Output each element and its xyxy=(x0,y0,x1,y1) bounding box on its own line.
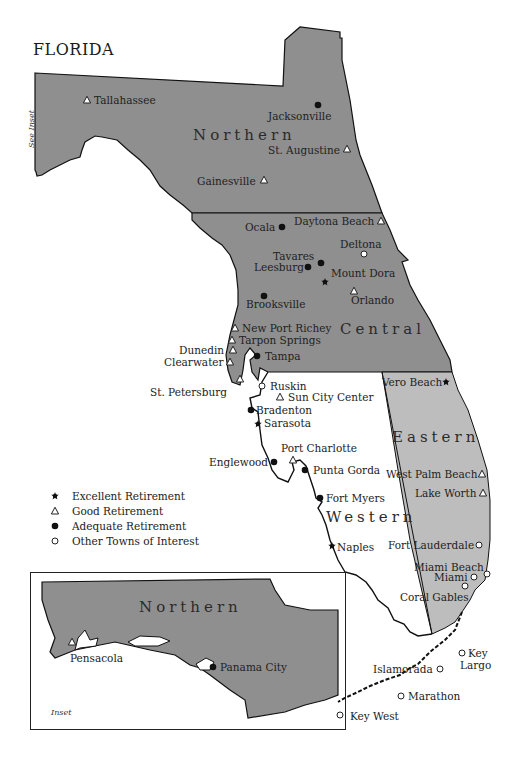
port-charlotte-marker[interactable] xyxy=(289,456,296,463)
legend-item-other: Other Towns of Interest xyxy=(50,533,199,548)
marathon-marker[interactable] xyxy=(398,693,404,699)
label-deltona[interactable]: Deltona xyxy=(340,238,382,250)
coral-gables-marker[interactable] xyxy=(462,583,468,589)
label-naples[interactable]: Naples xyxy=(337,541,374,553)
region-label-eastern: Eastern xyxy=(392,428,479,446)
label-punta-gorda[interactable]: Punta Gorda xyxy=(313,464,380,476)
legend: Excellent Retirement Good Retirement Ade… xyxy=(50,488,199,548)
region-label-western: Western xyxy=(326,508,417,526)
miami-marker[interactable] xyxy=(471,574,477,580)
label-marathon[interactable]: Marathon xyxy=(408,690,460,702)
label-miami[interactable]: Miami xyxy=(434,571,468,583)
label-daytona-beach[interactable]: Daytona Beach xyxy=(294,215,374,227)
label-ocala[interactable]: Ocala xyxy=(245,221,275,233)
label-key-west[interactable]: Key West xyxy=(350,710,399,722)
jacksonville-marker[interactable] xyxy=(315,102,322,109)
islamorada-marker[interactable] xyxy=(437,666,443,672)
label-orlando[interactable]: Orlando xyxy=(351,294,394,306)
inset-label-panama-city[interactable]: Panama City xyxy=(220,661,287,673)
label-new-port-richey[interactable]: New Port Richey xyxy=(242,322,331,334)
label-west-palm-beach[interactable]: West Palm Beach xyxy=(386,468,477,480)
label-bradenton[interactable]: Bradenton xyxy=(256,404,312,416)
bradenton-marker[interactable] xyxy=(248,407,255,414)
label-islamorada[interactable]: Islamorada xyxy=(373,663,433,675)
label-largo[interactable]: Largo xyxy=(460,659,491,671)
inset-map xyxy=(30,572,346,730)
punta-gorda-marker[interactable] xyxy=(302,467,309,474)
label-coral-gables[interactable]: Coral Gables xyxy=(400,591,469,603)
sun-city-center-marker[interactable] xyxy=(276,393,283,400)
legend-item-excellent: Excellent Retirement xyxy=(50,488,199,503)
ocala-marker[interactable] xyxy=(279,224,286,231)
label-tarpon-springs[interactable]: Tarpon Springs xyxy=(239,334,321,346)
sarasota-marker[interactable] xyxy=(254,420,262,427)
triangle-icon xyxy=(50,506,72,516)
label-sun-city-center[interactable]: Sun City Center xyxy=(288,391,373,403)
label-port-charlotte[interactable]: Port Charlotte xyxy=(281,442,357,454)
label-clearwater[interactable]: Clearwater xyxy=(164,356,224,368)
label-lake-worth[interactable]: Lake Worth xyxy=(415,487,477,499)
key-largo-marker[interactable] xyxy=(459,650,465,656)
fort-lauderdale-marker[interactable] xyxy=(476,542,482,548)
label-brooksville[interactable]: Brooksville xyxy=(246,298,305,310)
label-mount-dora[interactable]: Mount Dora xyxy=(331,267,395,279)
label-dunedin[interactable]: Dunedin xyxy=(179,344,224,356)
label-vero-beach[interactable]: Vero Beach xyxy=(382,376,442,388)
label-sarasota[interactable]: Sarasota xyxy=(264,417,311,429)
label-leesburg[interactable]: Leesburg xyxy=(254,261,304,273)
label-fort-lauderdale[interactable]: Fort Lauderdale xyxy=(388,539,474,551)
label-fort-myers[interactable]: Fort Myers xyxy=(326,492,385,504)
region-label-central: Central xyxy=(340,320,425,338)
star-icon xyxy=(50,491,72,501)
deltona-marker[interactable] xyxy=(361,251,367,257)
label-tallahassee[interactable]: Tallahassee xyxy=(94,94,156,106)
label-key[interactable]: Key xyxy=(468,647,488,659)
inset-caption: Inset xyxy=(51,708,71,717)
inset-label-pensacola[interactable]: Pensacola xyxy=(70,652,123,664)
label-gainesville[interactable]: Gainesville xyxy=(197,175,256,187)
label-englewood[interactable]: Englewood xyxy=(209,456,268,468)
legend-item-adequate: Adequate Retirement xyxy=(50,518,199,533)
label-tampa[interactable]: Tampa xyxy=(265,350,300,362)
label-st-petersburg[interactable]: St. Petersburg xyxy=(150,386,227,398)
leesburg-marker[interactable] xyxy=(305,264,312,271)
englewood-marker[interactable] xyxy=(271,459,278,466)
miami-beach-marker[interactable] xyxy=(484,571,490,577)
see-inset-label: See Inset xyxy=(27,110,36,148)
inset-region-label-northern: Northern xyxy=(139,598,242,616)
dot-icon xyxy=(50,521,72,531)
circle-icon xyxy=(50,536,72,546)
tavares-marker[interactable] xyxy=(318,260,325,267)
ruskin-marker[interactable] xyxy=(259,383,265,389)
naples-marker[interactable] xyxy=(328,542,336,549)
legend-item-good: Good Retirement xyxy=(50,503,199,518)
tampa-marker[interactable] xyxy=(254,353,261,360)
region-label-northern: Northern xyxy=(193,126,296,144)
fort-myers-marker[interactable] xyxy=(317,495,324,502)
label-jacksonville[interactable]: Jacksonville xyxy=(268,110,331,122)
label-st-augustine[interactable]: St. Augustine xyxy=(268,144,340,156)
